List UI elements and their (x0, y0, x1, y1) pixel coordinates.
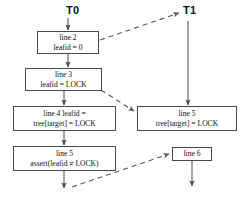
node-line-3-body: leafid = LOCK (40, 80, 86, 89)
node-line-5-write[interactable]: line 5 tree[target] = LOCK (137, 106, 237, 131)
node-line-3[interactable]: line 3 leafid = LOCK (25, 68, 102, 91)
node-line-5-write-title: line 5 (178, 109, 195, 118)
node-line-6-title: line 6 (183, 149, 200, 158)
node-line-5-assert[interactable]: line 5 assert(leafid ≠ LOCK) (13, 146, 116, 171)
node-line-5-assert-title: line 5 (56, 149, 73, 158)
diagram-canvas: T0 T1 line 2 leafid = 0 line 3 leafid = … (0, 0, 251, 200)
node-line-4[interactable]: line 4 leafid = tree[target] = LOCK (13, 106, 116, 131)
node-line-4-title: line 4 leafid = (43, 109, 85, 118)
node-line-2[interactable]: line 2 leafid = 0 (37, 31, 99, 54)
thread-label-t1: T1 (183, 4, 196, 16)
node-line-6[interactable]: line 6 (172, 147, 212, 161)
node-line-3-title: line 3 (55, 70, 72, 79)
node-line-2-title: line 2 (59, 33, 76, 42)
node-line-5-write-body: tree[target] = LOCK (156, 119, 218, 128)
edge-dashed-line2-to-t1 (100, 13, 179, 40)
node-line-5-assert-body: assert(leafid ≠ LOCK) (30, 159, 98, 168)
node-line-2-body: leafid = 0 (53, 43, 82, 52)
thread-label-t0: T0 (66, 4, 79, 16)
node-line-4-body: tree[target] = LOCK (33, 119, 95, 128)
